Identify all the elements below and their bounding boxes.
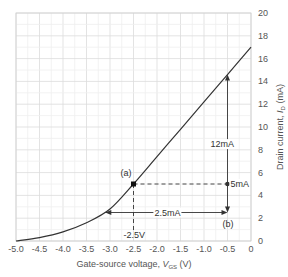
- x-tick-label: -4.0: [55, 244, 71, 254]
- y-tick-label: 10: [258, 122, 268, 132]
- x-tick-label: -2.5: [126, 244, 142, 254]
- x-tick-label: -1.5: [173, 244, 189, 254]
- x-tick-label: -0.5: [220, 244, 236, 254]
- y-tick-label: 12: [258, 99, 268, 109]
- x-tick-label: -1.0: [196, 244, 212, 254]
- y-tick-label: 2: [258, 213, 263, 223]
- arrowhead-down-icon: [225, 207, 230, 213]
- x-tick-label: -5.0: [8, 244, 24, 254]
- x-axis-label: Gate-source voltage, VGS (V): [76, 259, 191, 270]
- current-5mA-label: 5mA: [231, 179, 250, 189]
- y-tick-label: 6: [258, 168, 263, 178]
- y-tick-label: 16: [258, 54, 268, 64]
- y-tick-label: 0: [258, 236, 263, 246]
- y-tick-label: 18: [258, 31, 268, 41]
- x-tick-label: -4.5: [32, 244, 48, 254]
- point-a-label: (a): [121, 168, 132, 178]
- y-tick-label: 4: [258, 190, 263, 200]
- x-axis-ticks: -5.0-4.5-4.0-3.5-3.0-2.5-2.0-1.5-1.0-0.5…: [8, 244, 253, 254]
- x-tick-label: -2.0: [149, 244, 165, 254]
- y-tick-label: 20: [258, 8, 268, 18]
- point-a-marker: [131, 182, 136, 187]
- x-tick-label: -3.0: [102, 244, 118, 254]
- y-tick-label: 14: [258, 76, 268, 86]
- point-5mA-marker: [225, 182, 230, 187]
- y-axis-label: Drain current, ID (mA): [275, 84, 286, 170]
- arrowhead-right-icon: [222, 210, 228, 215]
- transfer-characteristic-chart: -5.0-4.5-4.0-3.5-3.0-2.5-2.0-1.5-1.0-0.5…: [0, 0, 288, 277]
- arrowhead-up-icon: [225, 75, 230, 81]
- current-12mA-label: 12mA: [211, 139, 235, 149]
- current-2.5mA-label: 2.5mA: [154, 208, 180, 218]
- y-axis-ticks: 02468101214161820: [258, 8, 268, 246]
- point-b-label: (b): [223, 219, 234, 229]
- x-tick-label: -3.5: [79, 244, 95, 254]
- y-tick-label: 8: [258, 145, 263, 155]
- x-tick-label: 0: [248, 244, 253, 254]
- vgs-mark-label: -2.5V: [124, 230, 146, 240]
